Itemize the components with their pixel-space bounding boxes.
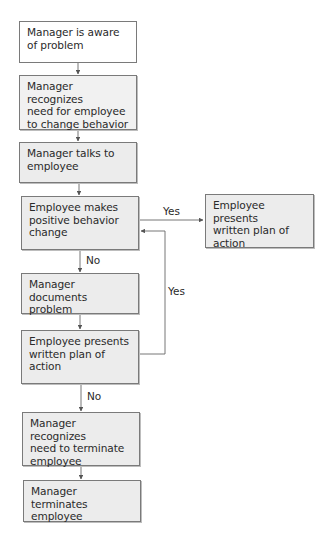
node-text: action <box>213 237 307 250</box>
node-text: Employee presents <box>29 335 132 348</box>
edge-label-yes-loop: Yes <box>168 285 185 297</box>
node-text: written plan of <box>29 348 132 361</box>
node-text: change <box>29 226 132 239</box>
node-text: need for employee <box>27 105 130 118</box>
node-text: employee <box>31 510 134 523</box>
node-text: Employee makes <box>29 201 132 214</box>
node-text: Manager documents <box>29 278 132 303</box>
node-text: employee <box>27 160 130 173</box>
node-text: problem <box>29 303 132 316</box>
node-text: Employee presents <box>213 199 307 224</box>
node-text: Manager talks to <box>27 147 130 160</box>
node-manager-aware: Manager is aware of problem <box>19 21 137 63</box>
node-employee-plan: Employee presents written plan of action <box>21 330 139 384</box>
node-text: need to terminate <box>30 442 133 455</box>
node-text: to change behavior <box>27 118 130 131</box>
node-text: employee <box>30 455 133 468</box>
node-manager-talks: Manager talks to employee <box>19 142 137 183</box>
edge-label-no-2: No <box>87 390 101 402</box>
node-text: Manager recognizes <box>30 417 133 442</box>
node-text: written plan of <box>213 224 307 237</box>
node-employee-plan-right: Employee presents written plan of action <box>205 194 314 248</box>
edge-label-no-1: No <box>86 254 100 266</box>
node-manager-terminates: Manager terminates employee <box>23 480 141 522</box>
node-text: positive behavior <box>29 214 132 227</box>
node-manager-recognizes-terminate: Manager recognizes need to terminate emp… <box>22 412 140 466</box>
node-text: of problem <box>27 39 130 52</box>
edge-label-yes-right: Yes <box>163 205 180 217</box>
node-text: Manager terminates <box>31 485 134 510</box>
node-manager-recognizes-change: Manager recognizes need for employee to … <box>19 75 137 130</box>
node-text: Manager recognizes <box>27 80 130 105</box>
node-text: Manager is aware <box>27 26 130 39</box>
node-employee-behavior-change: Employee makes positive behavior change <box>21 196 139 250</box>
node-text: action <box>29 360 132 373</box>
node-manager-documents: Manager documents problem <box>21 273 139 314</box>
